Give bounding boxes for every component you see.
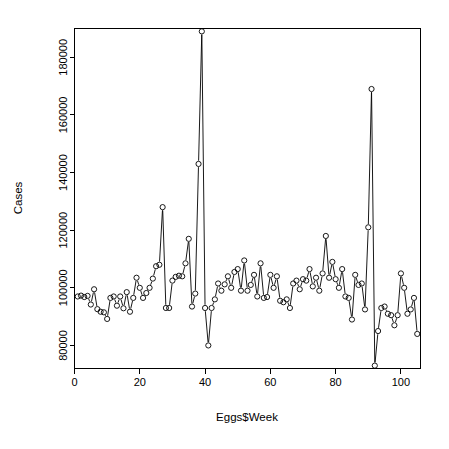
y-tick-label: 120000	[57, 212, 69, 249]
y-axis-title: Cases	[12, 181, 24, 214]
y-tick-label: 100000	[57, 269, 69, 306]
chart-canvas: 80000100000120000140000160000180000 0204…	[0, 0, 449, 449]
x-tick-label: 60	[264, 376, 276, 388]
x-axis-title: Eggs$Week	[216, 411, 278, 423]
y-tick-label: 80000	[57, 330, 69, 361]
x-tick-label: 100	[392, 376, 410, 388]
x-tick-label: 40	[199, 376, 211, 388]
y-tick-label: 160000	[57, 97, 69, 134]
y-tick-label: 140000	[57, 154, 69, 191]
x-tick-label: 80	[330, 376, 342, 388]
y-tick-label: 180000	[57, 39, 69, 76]
r-plot-container: 80000100000120000140000160000180000 0204…	[0, 0, 449, 449]
x-tick-label: 0	[71, 376, 77, 388]
x-tick-label: 20	[134, 376, 146, 388]
